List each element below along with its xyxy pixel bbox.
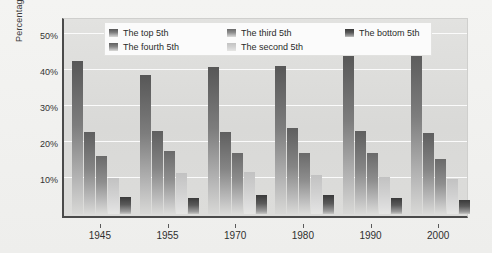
bar-1990-the-third-5th[interactable] — [367, 153, 378, 214]
legend-item-third-5th[interactable]: The third 5th — [227, 28, 345, 38]
bar-1970-the-third-5th[interactable] — [232, 153, 243, 214]
bar-1955-the-fourth-5th[interactable] — [152, 131, 163, 214]
x-tick-1990: 1990 — [359, 230, 381, 241]
bar-1970-the-fourth-5th[interactable] — [220, 132, 231, 214]
chart-legend: The top 5th The third 5th The bottom 5th… — [104, 22, 432, 56]
bar-2000-the-top-5th[interactable] — [411, 45, 422, 214]
x-tickmark-1990 — [371, 224, 372, 228]
bar-group-1990 — [343, 54, 402, 214]
y-tick-50%: 50% — [40, 31, 58, 41]
bar-1980-the-fourth-5th[interactable] — [287, 128, 298, 214]
x-tickmark-1970 — [235, 224, 236, 228]
bar-group-1970 — [208, 67, 267, 214]
legend-swatch-second-5th — [227, 43, 236, 51]
legend-item-second-5th[interactable]: The second 5th — [227, 42, 345, 52]
bar-1980-the-top-5th[interactable] — [275, 66, 286, 214]
bar-group-2000 — [411, 45, 470, 214]
legend-label-third-5th: The third 5th — [241, 28, 292, 38]
x-tickmark-1945 — [100, 224, 101, 228]
bar-1955-the-third-5th[interactable] — [164, 151, 175, 214]
legend-item-top-5th[interactable]: The top 5th — [109, 28, 227, 38]
bar-group-1945 — [72, 61, 131, 214]
y-axis-title-text: Percentage — [14, 0, 24, 78]
bar-1980-the-second-5th[interactable] — [311, 175, 322, 214]
bar-2000-the-fourth-5th[interactable] — [423, 133, 434, 214]
legend-label-top-5th: The top 5th — [123, 28, 169, 38]
bar-1955-the-bottom-5th[interactable] — [188, 198, 199, 214]
chart-figure: Percentage 10%20%30%40%50% 1945195519701… — [0, 0, 492, 253]
bar-1980-the-bottom-5th[interactable] — [323, 195, 334, 214]
bar-group-1980 — [275, 66, 334, 214]
legend-item-bottom-5th[interactable]: The bottom 5th — [345, 28, 420, 38]
bar-1955-the-top-5th[interactable] — [140, 75, 151, 214]
y-tick-30%: 30% — [40, 103, 58, 113]
legend-swatch-top-5th — [109, 29, 118, 37]
x-tickmark-1980 — [303, 224, 304, 228]
legend-label-bottom-5th: The bottom 5th — [359, 28, 420, 38]
bar-1970-the-top-5th[interactable] — [208, 67, 219, 214]
legend-swatch-third-5th — [227, 29, 236, 37]
bar-1945-the-top-5th[interactable] — [72, 61, 83, 214]
x-tickmark-1955 — [168, 224, 169, 228]
bar-1945-the-third-5th[interactable] — [96, 156, 107, 214]
legend-item-fourth-5th[interactable]: The fourth 5th — [109, 42, 227, 52]
bar-1990-the-second-5th[interactable] — [379, 177, 390, 214]
x-tick-1980: 1980 — [292, 230, 314, 241]
x-axis-tick-labels: 194519551970198019902000 — [62, 224, 468, 244]
bar-1945-the-second-5th[interactable] — [108, 178, 119, 214]
bar-2000-the-bottom-5th[interactable] — [459, 200, 470, 214]
bar-2000-the-second-5th[interactable] — [447, 179, 458, 214]
bar-1990-the-bottom-5th[interactable] — [391, 198, 402, 214]
y-axis-title: Percentage — [14, 0, 24, 78]
x-tick-1955: 1955 — [156, 230, 178, 241]
legend-row-1: The top 5th The third 5th The bottom 5th — [109, 26, 427, 40]
y-tick-40%: 40% — [40, 67, 58, 77]
bar-1945-the-fourth-5th[interactable] — [84, 132, 95, 214]
x-tick-2000: 2000 — [427, 230, 449, 241]
legend-label-fourth-5th: The fourth 5th — [123, 42, 179, 52]
legend-label-second-5th: The second 5th — [241, 42, 303, 52]
x-tickmark-2000 — [438, 224, 439, 228]
y-tick-10%: 10% — [40, 175, 58, 185]
y-tick-20%: 20% — [40, 139, 58, 149]
bar-1970-the-bottom-5th[interactable] — [256, 195, 267, 214]
bar-2000-the-third-5th[interactable] — [435, 159, 446, 214]
bar-1945-the-bottom-5th[interactable] — [120, 197, 131, 214]
bar-1980-the-third-5th[interactable] — [299, 153, 310, 214]
bar-group-1955 — [140, 75, 199, 214]
bar-1970-the-second-5th[interactable] — [244, 172, 255, 214]
legend-swatch-bottom-5th — [345, 29, 354, 37]
bar-1990-the-fourth-5th[interactable] — [355, 131, 366, 214]
x-tick-1945: 1945 — [89, 230, 111, 241]
legend-swatch-fourth-5th — [109, 43, 118, 51]
bar-1990-the-top-5th[interactable] — [343, 54, 354, 214]
bar-1955-the-second-5th[interactable] — [176, 173, 187, 214]
x-tick-1970: 1970 — [224, 230, 246, 241]
y-axis-tick-labels: 10%20%30%40%50% — [30, 58, 58, 226]
legend-row-2: The fourth 5th The second 5th — [109, 40, 427, 54]
